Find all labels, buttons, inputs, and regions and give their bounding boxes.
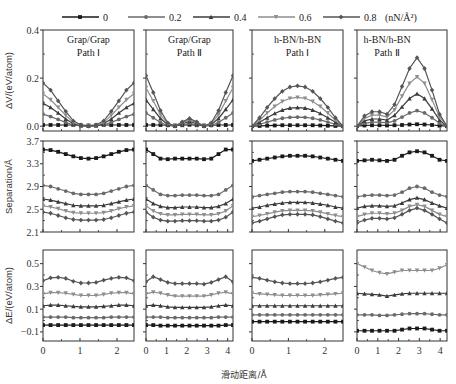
data-point-0.2	[288, 115, 292, 119]
data-point-0.8	[209, 280, 213, 285]
data-point-0.8	[295, 281, 299, 286]
data-point-0.8	[250, 221, 254, 226]
data-point-0.2	[79, 193, 83, 197]
data-point-0	[64, 323, 68, 327]
data-point-0	[79, 323, 83, 327]
data-point-0.2	[445, 313, 449, 317]
panel-title-line1: Grap/Grap	[168, 34, 211, 45]
panel-r0-c1: Grap/GrapPath Ⅱ	[143, 30, 235, 131]
data-point-0.2	[393, 313, 397, 317]
data-point-0	[378, 329, 382, 333]
data-point-0	[393, 329, 397, 333]
data-point-0	[71, 323, 75, 327]
data-point-0	[326, 320, 330, 324]
data-point-0.2	[378, 193, 382, 197]
data-point-0.8	[318, 279, 322, 284]
data-point-0	[159, 324, 163, 328]
y-tick-label: 2.5	[27, 204, 40, 215]
data-point-0	[41, 148, 45, 152]
data-point-0.8	[303, 85, 307, 90]
panel-title-line2: Path Ⅰ	[286, 47, 309, 58]
data-point-0.2	[318, 118, 322, 122]
data-point-0.8	[41, 278, 45, 283]
data-point-0	[400, 123, 404, 127]
data-point-0.8	[79, 218, 83, 223]
data-point-0.8	[124, 211, 128, 216]
data-point-0.8	[377, 216, 381, 221]
data-point-0.4	[231, 197, 235, 201]
data-point-0.8	[64, 215, 68, 220]
data-point-0.2	[318, 313, 322, 317]
data-point-0.2	[56, 187, 60, 191]
x-tick-label: 0	[144, 345, 149, 356]
data-point-0.6	[355, 215, 359, 219]
data-point-0.8	[144, 73, 148, 78]
data-point-0.8	[326, 278, 330, 283]
data-point-0	[311, 320, 315, 324]
data-point-0	[318, 156, 322, 160]
y-axis-label-2: ΔE/(eV/atom)	[3, 267, 14, 324]
data-point-0.8	[250, 275, 254, 280]
data-point-0.8	[257, 219, 261, 224]
data-point-0	[280, 123, 284, 127]
panel-title-line1: h-BN/h-BN	[274, 34, 321, 45]
data-point-0.2	[408, 186, 412, 190]
data-point-0.2	[117, 315, 121, 319]
data-point-0.8	[151, 90, 155, 95]
data-point-0.2	[311, 190, 315, 194]
data-point-0.8	[180, 218, 184, 223]
data-point-0.2	[273, 118, 277, 122]
data-point-0.2	[378, 314, 382, 318]
figure: 00.20.40.60.8(nN/Å²) 0.00.20.4Grap/GrapP…	[0, 0, 456, 384]
data-point-0	[296, 123, 300, 127]
data-point-0.8	[109, 276, 113, 281]
data-point-0	[363, 158, 367, 162]
data-point-0	[56, 123, 60, 127]
data-point-0	[151, 152, 155, 156]
data-point-0.2	[109, 120, 113, 124]
data-point-0.2	[117, 118, 121, 122]
data-point-0.8	[265, 217, 269, 222]
data-point-0.8	[273, 279, 277, 284]
data-point-0	[385, 159, 389, 163]
data-point-0.2	[64, 189, 68, 193]
data-point-0.2	[265, 313, 269, 317]
data-point-0	[393, 158, 397, 162]
data-point-0.2	[415, 185, 419, 189]
x-axis-label: 滑动距离/Å	[221, 369, 267, 380]
data-point-0.8	[71, 217, 75, 222]
data-point-0.2	[303, 190, 307, 194]
x-tick-label: 2	[396, 345, 401, 356]
data-point-0.2	[280, 116, 284, 120]
data-point-0	[341, 320, 345, 324]
data-point-0.4	[231, 97, 235, 101]
x-tick-label: 3	[205, 345, 210, 356]
data-point-0.2	[355, 195, 359, 199]
data-point-0	[94, 156, 98, 160]
data-point-0	[231, 148, 235, 152]
data-point-0.2	[280, 313, 284, 317]
data-point-0	[280, 154, 284, 158]
data-point-0	[326, 124, 330, 128]
data-point-0	[288, 123, 292, 127]
data-point-0.2	[144, 315, 148, 319]
data-point-0.2	[79, 316, 83, 320]
data-point-0.2	[209, 316, 213, 320]
legend: 00.20.40.60.8(nN/Å²)	[62, 12, 417, 24]
data-point-0	[188, 324, 192, 328]
data-point-0.2	[280, 190, 284, 194]
panel-r1-c1	[143, 141, 235, 232]
data-point-0.8	[117, 213, 121, 218]
data-point-0	[363, 329, 367, 333]
data-point-0.8	[216, 218, 220, 223]
data-point-0.2	[288, 190, 292, 194]
data-point-0.2	[311, 116, 315, 120]
data-point-0.8	[288, 281, 292, 286]
data-point-0	[166, 157, 170, 161]
legend-marker-0	[78, 15, 82, 19]
data-point-0.2	[64, 315, 68, 319]
data-point-0.2	[273, 191, 277, 195]
panel-title-line1: Grap/Grap	[67, 34, 110, 45]
data-point-0.2	[151, 188, 155, 192]
data-point-0	[202, 324, 206, 328]
